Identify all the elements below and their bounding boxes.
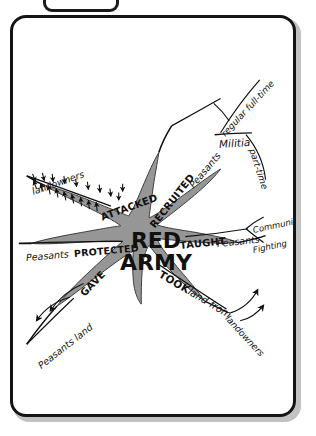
mindmap-card[interactable]: RED ARMY ATTACKED landowners PROTECTED P… bbox=[10, 15, 296, 417]
previous-card-stub bbox=[43, 0, 119, 12]
branch-recruited bbox=[159, 80, 266, 180]
branch-attacked bbox=[27, 173, 123, 211]
screenshot-root: RED ARMY ATTACKED landowners PROTECTED P… bbox=[0, 0, 316, 436]
mindmap-drawing bbox=[13, 18, 293, 414]
red-army-blob bbox=[32, 152, 239, 306]
